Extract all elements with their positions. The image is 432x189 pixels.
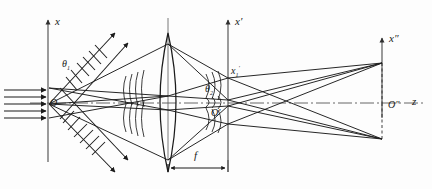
origin-o-prime-text: O′ [211,107,220,118]
angle-label-theta-1: θ1 [62,59,70,71]
theta-1-subscript: 1 [67,65,70,71]
rays-transform-to-output [228,63,382,139]
angle-label-theta-2: θ2 [205,84,213,96]
optics-figure: x x′ x″ z O O′ O″ θ1 θ2 x1′ f [0,0,432,189]
rays-lens-to-transform [168,44,228,160]
transform-coordinate-label-x1-prime: x1′ [231,65,240,78]
axis-label-x-prime: x′ [235,16,242,27]
incident-plane-wave-arrows [4,90,46,118]
origin-label-o-prime: O′ [211,108,220,118]
diagram-canvas [0,0,432,189]
axis-label-x: x [55,16,60,27]
theta-2-subscript: 2 [210,90,213,96]
focal-length-label: f [194,150,197,161]
axis-label-x-double-prime: x″ [389,33,398,44]
axis-label-z: z [412,96,416,107]
x1-prime-superscript: ′ [238,65,239,71]
origin-label-o: O [50,98,57,108]
x1-prime-subscript: 1 [235,72,238,78]
origin-label-o-double-prime: O″ [388,100,399,110]
focal-length-dimension-line [168,160,228,172]
origin-o-double-prime-text: O″ [388,99,399,110]
